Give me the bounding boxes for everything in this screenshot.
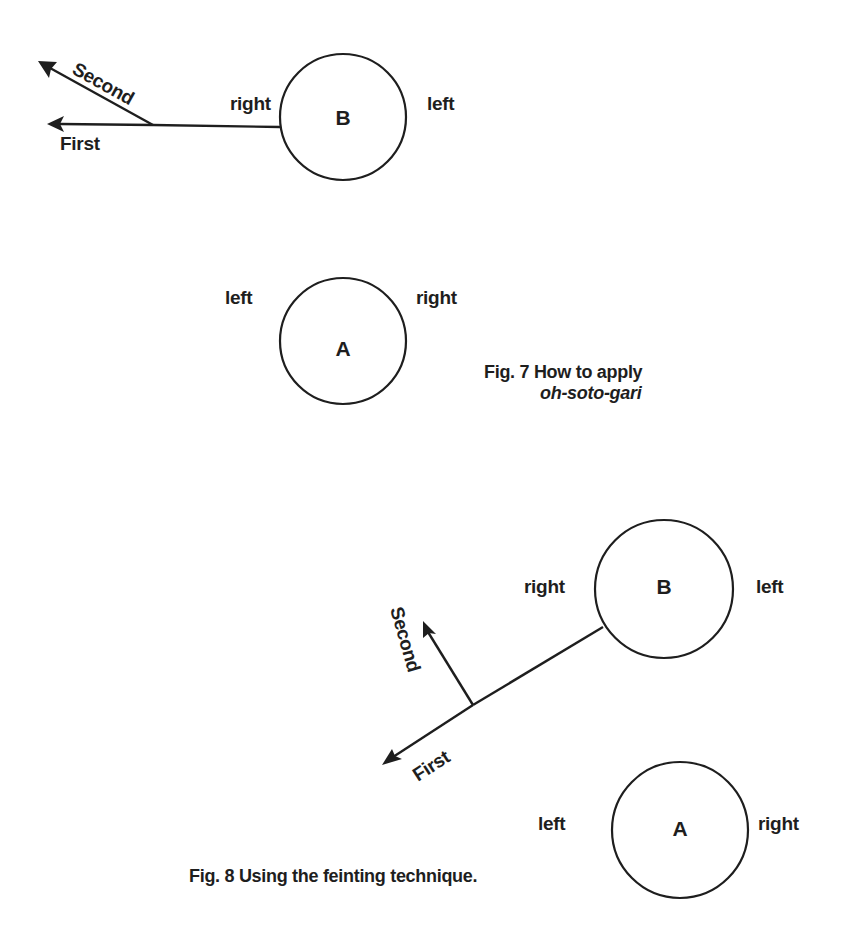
fig8-caption: Fig. 8 Using the feinting technique. [189, 866, 477, 886]
b-left-side-label: left [756, 576, 784, 597]
fig7-caption-technique: oh-soto-gari [540, 383, 643, 403]
a-right-side-label: right [758, 813, 800, 834]
first-arrow-line [393, 705, 473, 757]
b-right-side-label: right [230, 93, 272, 114]
figure-8: B right left First Second A left right F… [189, 520, 800, 898]
b-movement-line [153, 125, 280, 127]
b-left-side-label: left [427, 93, 455, 114]
person-a-label: A [335, 337, 350, 360]
first-label: First [60, 133, 101, 154]
fig7-caption-title: Fig. 7 How to apply [484, 362, 643, 382]
first-label: First [409, 746, 455, 786]
person-a-label: A [672, 817, 687, 840]
second-label: Second [386, 604, 425, 674]
a-right-side-label: right [416, 287, 458, 308]
a-left-side-label: left [538, 813, 566, 834]
person-b-label: B [335, 106, 350, 129]
figure-7: B right left First Second A left right F… [38, 54, 643, 404]
person-b-label: B [656, 575, 671, 598]
b-movement-line [473, 627, 603, 705]
judo-diagrams: B right left First Second A left right F… [0, 0, 845, 941]
first-arrowhead-icon [382, 749, 402, 765]
page: B right left First Second A left right F… [0, 0, 845, 941]
b-right-side-label: right [524, 576, 566, 597]
second-arrow-line [428, 632, 473, 705]
first-arrow-line [60, 124, 153, 125]
a-left-side-label: left [225, 287, 253, 308]
